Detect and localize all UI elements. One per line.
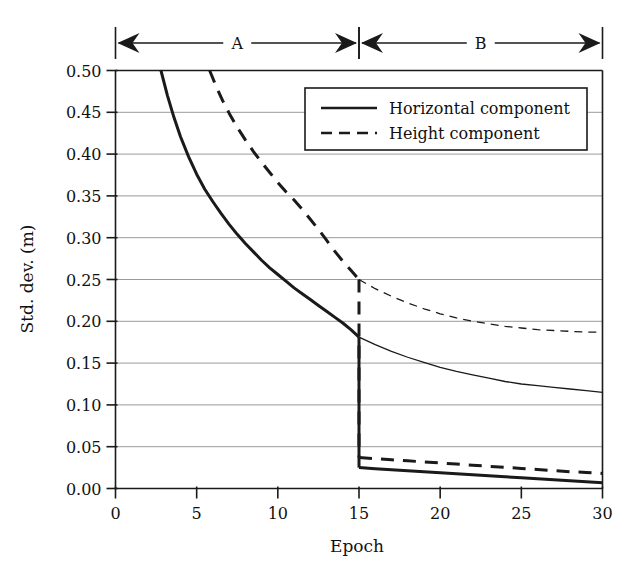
y-tick-label-0.50: 0.50: [66, 62, 102, 81]
x-tick-label-0: 0: [110, 504, 120, 523]
x-tick-label-10: 10: [268, 504, 288, 523]
y-tick-label-0.45: 0.45: [66, 103, 102, 122]
y-tick-label-0.00: 0.00: [66, 480, 102, 499]
y-tick-label-0.25: 0.25: [66, 271, 102, 290]
y-tick-label-0.30: 0.30: [66, 229, 102, 248]
x-tick-label-30: 30: [592, 504, 612, 523]
y-axis-title: Std. dev. (m): [17, 225, 37, 334]
phase-label-B: B: [475, 34, 487, 53]
y-tick-label-0.35: 0.35: [66, 187, 102, 206]
y-tick-label-0.20: 0.20: [66, 312, 102, 331]
x-tick-label-5: 5: [192, 504, 202, 523]
legend-label-1: Horizontal component: [389, 99, 571, 118]
x-tick-label-25: 25: [511, 504, 531, 523]
y-tick-label-0.40: 0.40: [66, 145, 102, 164]
phase-label-A: A: [230, 34, 243, 53]
y-tick-label-0.15: 0.15: [66, 354, 102, 373]
y-tick-label-0.05: 0.05: [66, 438, 102, 457]
x-tick-label-20: 20: [430, 504, 450, 523]
x-axis-title: Epoch: [330, 536, 384, 556]
legend: Horizontal componentHeight component: [305, 88, 587, 150]
std-dev-vs-epoch-chart: AB 0.000.050.100.150.200.250.300.350.400…: [0, 0, 632, 586]
chart-figure: AB 0.000.050.100.150.200.250.300.350.400…: [0, 0, 632, 586]
legend-label-2: Height component: [389, 124, 540, 143]
y-tick-label-0.10: 0.10: [66, 396, 102, 415]
x-tick-label-15: 15: [349, 504, 369, 523]
